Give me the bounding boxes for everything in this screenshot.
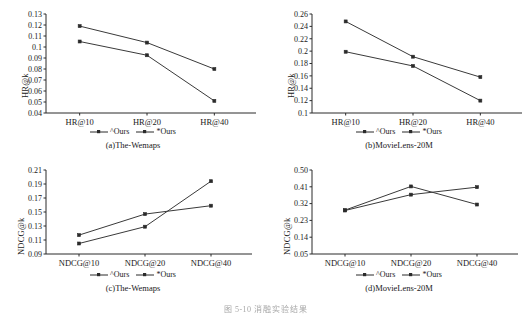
figure-caption-text: 消融实验结果: [254, 305, 308, 314]
y-tick-label: 0.16: [294, 72, 308, 81]
legend-label-caret: ^Ours: [110, 270, 129, 279]
y-tick-label: 0.1: [298, 109, 308, 118]
y-tick-label: 0.13: [28, 10, 42, 19]
data-point-marker: [78, 25, 81, 28]
legend-item-ours-star: *Ours: [402, 270, 442, 279]
legend-d: ^Ours *Ours: [266, 270, 532, 279]
y-tick-label: 0.41: [294, 183, 308, 192]
y-tick-label: 0.22: [294, 35, 308, 44]
y-tick-label: 0.11: [28, 236, 42, 245]
y-tick-label: 0.12: [294, 96, 308, 105]
legend-label-star: *Ours: [422, 270, 442, 279]
x-tick-label: NDCG@40: [191, 258, 231, 268]
data-point-marker: [213, 68, 216, 71]
data-point-marker: [78, 242, 81, 245]
y-tick-label: 0.04: [28, 109, 42, 118]
data-point-marker: [144, 225, 147, 228]
plot-area-a: 0.040.050.060.070.080.090.10.110.120.13H…: [0, 2, 266, 132]
data-point-marker: [344, 50, 347, 53]
y-tick-label: 0.32: [294, 199, 308, 208]
legend-swatch-star-icon: [136, 128, 154, 136]
panel-caption-a: (a)The-Wemaps: [0, 140, 266, 150]
legend-item-ours-star: *Ours: [136, 270, 176, 279]
legend-b: ^Ours *Ours: [266, 127, 532, 136]
y-tick-label: 0.24: [294, 22, 308, 31]
data-point-marker: [412, 64, 415, 67]
data-point-marker: [144, 213, 147, 216]
data-point-marker: [476, 203, 479, 206]
legend-c: ^Ours *Ours: [0, 270, 266, 279]
legend-label-caret: ^Ours: [376, 127, 395, 136]
series-line-caret-ours: [345, 186, 477, 210]
y-tick-label: 0.14: [294, 84, 308, 93]
plot-area-b: 0.10.120.140.160.180.20.220.240.26HR@10H…: [266, 2, 532, 132]
data-point-marker: [146, 54, 149, 57]
x-tick-label: HR@20: [399, 117, 427, 127]
series-line-caret-ours: [346, 52, 481, 101]
legend-swatch-star-icon: [136, 271, 154, 279]
figure-panel-grid: HR@k 0.040.050.060.070.080.090.10.110.12…: [0, 0, 532, 300]
legend-item-ours-caret: ^Ours: [356, 127, 395, 136]
y-tick-label: 0.21: [28, 166, 42, 175]
y-tick-label: 0.12: [28, 21, 42, 30]
legend-label-star: *Ours: [422, 127, 442, 136]
y-tick-label: 0.09: [28, 54, 42, 63]
legend-item-ours-caret: ^Ours: [90, 127, 129, 136]
panel-caption-b: (b)MovieLens-20M: [266, 140, 532, 150]
legend-item-ours-star: *Ours: [402, 127, 442, 136]
y-tick-label: 0.50: [294, 166, 308, 175]
y-tick-label: 0.23: [294, 216, 308, 225]
legend-a: ^Ours *Ours: [0, 127, 266, 136]
series-line-caret-ours: [79, 206, 211, 235]
figure-caption: 图 5-10 消融实验结果: [0, 303, 532, 314]
data-point-marker: [78, 234, 81, 237]
chart-panel-c: NDCG@k 0.090.110.130.150.170.190.21NDCG@…: [0, 160, 266, 300]
x-tick-label: HR@20: [133, 117, 161, 127]
legend-label-star: *Ours: [156, 127, 176, 136]
series-line-caret-ours: [80, 42, 215, 101]
data-point-marker: [210, 204, 213, 207]
y-tick-label: 0.07: [28, 76, 42, 85]
x-tick-label: NDCG@10: [59, 258, 99, 268]
legend-swatch-caret-icon: [356, 271, 374, 279]
plot-area-c: 0.090.110.130.150.170.190.21NDCG@10NDCG@…: [0, 160, 266, 272]
y-tick-label: 0.17: [28, 194, 42, 203]
panel-caption-d: (d)MovieLens-20M: [266, 283, 532, 293]
y-tick-label: 0.13: [28, 222, 42, 231]
series-line-star-ours: [80, 26, 215, 69]
legend-swatch-caret-icon: [90, 271, 108, 279]
legend-item-ours-star: *Ours: [136, 127, 176, 136]
y-tick-label: 0.14: [294, 233, 308, 242]
plot-area-d: 0.050.140.230.320.410.50NDCG@10NDCG@20ND…: [266, 160, 532, 272]
chart-panel-d: NDCG@k 0.050.140.230.320.410.50NDCG@10ND…: [266, 160, 532, 300]
x-tick-label: NDCG@10: [325, 258, 365, 268]
legend-item-ours-caret: ^Ours: [90, 270, 129, 279]
legend-item-ours-caret: ^Ours: [356, 270, 395, 279]
y-tick-label: 0.2: [298, 47, 308, 56]
data-point-marker: [410, 193, 413, 196]
legend-swatch-star-icon: [402, 271, 420, 279]
chart-panel-a: HR@k 0.040.050.060.070.080.090.10.110.12…: [0, 0, 266, 160]
chart-panel-b: HR@k 0.10.120.140.160.180.20.220.240.26H…: [266, 0, 532, 160]
y-tick-label: 0.1: [32, 43, 42, 52]
y-tick-label: 0.09: [28, 250, 42, 259]
data-point-marker: [344, 209, 347, 212]
legend-label-caret: ^Ours: [110, 127, 129, 136]
y-tick-label: 0.05: [294, 250, 308, 259]
series-line-star-ours: [346, 21, 481, 77]
x-tick-label: NDCG@40: [457, 258, 497, 268]
data-point-marker: [479, 76, 482, 79]
y-tick-label: 0.19: [28, 180, 42, 189]
data-point-marker: [146, 41, 149, 44]
x-tick-label: HR@10: [332, 117, 360, 127]
x-tick-label: HR@40: [200, 117, 228, 127]
y-tick-label: 0.26: [294, 10, 308, 19]
legend-swatch-caret-icon: [356, 128, 374, 136]
data-point-marker: [210, 180, 213, 183]
y-tick-label: 0.05: [28, 98, 42, 107]
data-point-marker: [213, 99, 216, 102]
data-point-marker: [479, 99, 482, 102]
data-point-marker: [476, 186, 479, 189]
y-tick-label: 0.08: [28, 65, 42, 74]
legend-label-caret: ^Ours: [376, 270, 395, 279]
